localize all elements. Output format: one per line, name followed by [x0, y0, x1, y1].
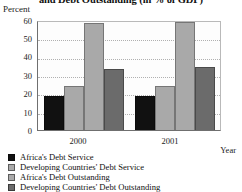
- legend: Africa's Debt Service Developing Countri…: [8, 153, 234, 192]
- bar-africa-debt-outstanding-2001[interactable]: [175, 22, 195, 130]
- bar-africa-debt-service-2000[interactable]: [44, 96, 64, 130]
- bars-2001: [135, 22, 215, 130]
- bar-group-2000: [38, 22, 129, 130]
- y-tick-20: 20: [5, 89, 32, 99]
- y-axis-title: Percent: [3, 4, 30, 14]
- legend-label-africa-debt-service: Africa's Debt Service: [20, 153, 94, 162]
- plot-area: [37, 21, 221, 131]
- bar-developing-debt-outstanding-2000[interactable]: [104, 69, 124, 130]
- legend-swatch-icon-developing-debt-service: [8, 164, 15, 171]
- bar-developing-debt-service-2000[interactable]: [64, 86, 84, 130]
- y-tick-30: 30: [5, 71, 32, 81]
- y-tick-10: 10: [5, 108, 32, 118]
- legend-item-africa-debt-outstanding[interactable]: Africa's Debt Outstanding: [8, 173, 234, 183]
- legend-swatch-icon-africa-debt-service: [8, 154, 15, 161]
- chart-title: and Debt Outstanding (in % of GDP): [0, 0, 242, 5]
- y-tick-0: 0: [5, 126, 32, 136]
- y-tick-40: 40: [5, 52, 32, 62]
- bar-africa-debt-service-2001[interactable]: [135, 96, 155, 130]
- bar-developing-debt-service-2001[interactable]: [155, 86, 175, 130]
- legend-label-africa-debt-outstanding: Africa's Debt Outstanding: [20, 173, 110, 182]
- legend-swatch-icon-developing-debt-outstanding: [8, 184, 15, 191]
- y-tick-50: 50: [5, 34, 32, 44]
- legend-label-developing-debt-service: Developing Countries' Debt Service: [20, 163, 144, 172]
- bar-africa-debt-outstanding-2000[interactable]: [84, 23, 104, 130]
- legend-item-africa-debt-service[interactable]: Africa's Debt Service: [8, 153, 234, 163]
- x-tick-2001: 2001: [140, 136, 200, 146]
- legend-swatch-icon-africa-debt-outstanding: [8, 174, 15, 181]
- legend-item-developing-debt-outstanding[interactable]: Developing Countries' Debt Outstanding: [8, 183, 234, 192]
- chart-figure: and Debt Outstanding (in % of GDP) Perce…: [0, 0, 242, 192]
- legend-label-developing-debt-outstanding: Developing Countries' Debt Outstanding: [20, 183, 160, 192]
- bar-developing-debt-outstanding-2001[interactable]: [195, 67, 215, 130]
- legend-item-developing-debt-service[interactable]: Developing Countries' Debt Service: [8, 163, 234, 173]
- y-tick-60: 60: [5, 16, 32, 26]
- bar-group-2001: [129, 22, 220, 130]
- bar-groups: [38, 22, 220, 130]
- x-tick-2000: 2000: [48, 136, 108, 146]
- bars-2000: [44, 22, 124, 130]
